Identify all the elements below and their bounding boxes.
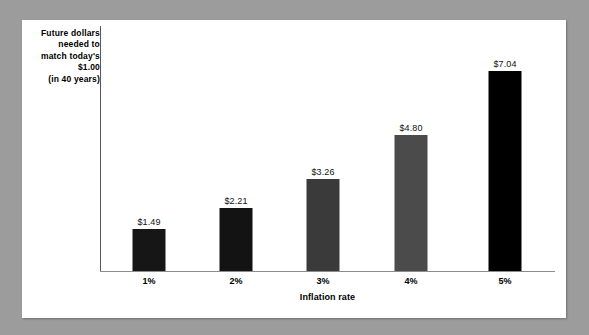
x-axis-tick-label-4: 4%: [380, 276, 442, 286]
y-axis-title-line-1: Future dollars: [28, 28, 100, 39]
x-axis-tick-label-2: 2%: [205, 276, 267, 286]
y-axis-title-line-5: (in 40 years): [28, 74, 100, 85]
bar-value-label-5: $7.04: [494, 59, 517, 69]
y-axis-title-line-3: match today's: [28, 51, 100, 62]
bar-value-label-1: $1.49: [138, 217, 161, 227]
bar-2[interactable]: [220, 208, 253, 271]
bar-value-label-3: $3.26: [312, 167, 335, 177]
bar-value-label-4: $4.80: [400, 123, 423, 133]
bar-group-4: $4.80: [380, 26, 442, 271]
y-axis-title-line-4: $1.00: [28, 62, 100, 73]
bar-1[interactable]: [133, 229, 166, 271]
x-axis-line: [100, 271, 555, 272]
bar-value-label-2: $2.21: [225, 196, 248, 206]
plot-area: $1.49 $2.21 $3.26 $4.80 $7.04: [100, 26, 555, 271]
bar-5[interactable]: [489, 71, 522, 271]
bar-3[interactable]: [307, 179, 340, 271]
chart-background: Future dollars needed to match today's $…: [0, 0, 589, 335]
x-axis-tick-labels: 1% 2% 3% 4% 5%: [100, 276, 555, 290]
x-axis-tick-label-5: 5%: [474, 276, 536, 286]
y-axis-title-line-2: needed to: [28, 39, 100, 50]
chart-panel: Future dollars needed to match today's $…: [22, 20, 566, 318]
bar-4[interactable]: [395, 135, 428, 271]
bar-group-1: $1.49: [118, 26, 180, 271]
x-axis-title: Inflation rate: [100, 292, 555, 302]
x-axis-tick-label-1: 1%: [118, 276, 180, 286]
x-axis-tick-label-3: 3%: [292, 276, 354, 286]
bar-group-5: $7.04: [474, 26, 536, 271]
bar-group-2: $2.21: [205, 26, 267, 271]
y-axis-title: Future dollars needed to match today's $…: [28, 28, 100, 85]
bar-group-3: $3.26: [292, 26, 354, 271]
